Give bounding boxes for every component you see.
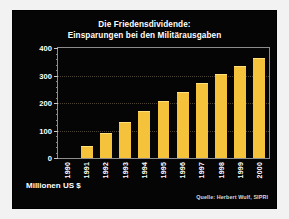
x-axis-label: 1993 [122, 162, 129, 178]
x-axis-label: 1996 [179, 162, 186, 178]
bar-slot [173, 48, 192, 158]
bar [138, 111, 150, 158]
y-axis-tick [54, 158, 58, 159]
y-axis-label: 200 [39, 99, 52, 108]
bar [253, 58, 265, 158]
bar-slot [58, 48, 77, 158]
bar-slot [77, 48, 96, 158]
bar-slot [231, 48, 250, 158]
bar [177, 92, 189, 158]
x-axis-label: 1999 [237, 162, 244, 178]
bar-slot [154, 48, 173, 158]
bar [158, 101, 170, 158]
unit-label: Millionen US $ [26, 181, 81, 190]
bar [234, 66, 246, 158]
chart-panel: Die Friedensdividende: Einsparungen bei … [13, 11, 276, 208]
x-axis-label: 1990 [64, 162, 71, 178]
y-axis-label: 300 [39, 71, 52, 80]
chart-figure: Die Friedensdividende: Einsparungen bei … [0, 0, 289, 219]
x-axis-label: 1992 [102, 162, 109, 178]
x-axis-label: 1997 [198, 162, 205, 178]
bar [100, 133, 112, 158]
y-axis-label: 400 [39, 44, 52, 53]
bar-slot [96, 48, 115, 158]
bar-series [58, 48, 269, 158]
bar-slot [116, 48, 135, 158]
chart-title-line-1: Die Friedensdividende: [13, 20, 276, 31]
y-axis-label: 100 [39, 126, 52, 135]
x-axis-label: 2000 [256, 162, 263, 178]
bar [81, 146, 93, 158]
bar [215, 74, 227, 158]
source-label: Quelle: Herbert Wulf, SIPRI [196, 194, 268, 200]
plot-area: 0100200300400 19901991199219931994199519… [57, 47, 270, 159]
bar-slot [211, 48, 230, 158]
bar [196, 83, 208, 158]
x-axis-label: 1994 [141, 162, 148, 178]
y-axis-label: 0 [48, 154, 52, 163]
bar-slot [192, 48, 211, 158]
x-axis-label: 1991 [83, 162, 90, 178]
bar-slot [135, 48, 154, 158]
x-axis-label: 1995 [160, 162, 167, 178]
bar [119, 122, 131, 158]
bar-slot [250, 48, 269, 158]
chart-title-line-2: Einsparungen bei den Militärausgaben [13, 31, 276, 42]
chart-title: Die Friedensdividende: Einsparungen bei … [13, 20, 276, 41]
x-axis-label: 1998 [218, 162, 225, 178]
